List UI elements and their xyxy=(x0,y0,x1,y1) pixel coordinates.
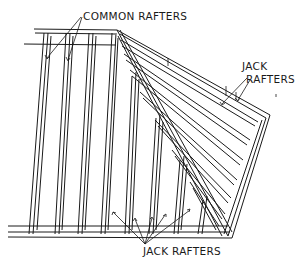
wall-plate xyxy=(8,226,232,238)
purlin-line xyxy=(24,44,116,45)
jack-rafters-main-side xyxy=(125,72,207,234)
label-jack-rafters-bottom: JACK RAFTERS xyxy=(143,246,221,257)
common-rafters xyxy=(29,33,118,234)
roof-framing-drawing xyxy=(0,0,301,268)
label-jack-rafters-top-line2: RAFTERS xyxy=(246,74,295,85)
ridge-board xyxy=(34,29,117,34)
label-jack-rafters-top-line1: JACK xyxy=(242,61,267,72)
label-common-rafters: COMMON RAFTERS xyxy=(83,11,187,22)
hip-roof-framing-diagram: COMMON RAFTERS JACK RAFTERS JACK RAFTERS xyxy=(0,0,301,268)
